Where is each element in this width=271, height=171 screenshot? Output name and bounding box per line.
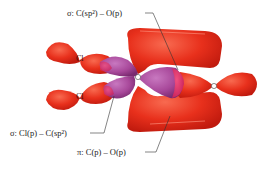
orbital-diagram xyxy=(0,0,271,171)
label-sigma-clc: σ: Cl(p) – C(sp²) xyxy=(10,128,67,138)
atom-label-cl-top: Cl xyxy=(76,54,84,63)
label-sigma-co: σ: C(sp²) – O(p) xyxy=(67,8,122,18)
carbon-nucleus xyxy=(135,74,140,79)
oxygen-nucleus xyxy=(211,83,216,88)
atom-label-cl-bottom: Cl xyxy=(76,92,84,101)
oxygen-lobe-right xyxy=(214,73,257,97)
label-pi-co: π: C(p) – O(p) xyxy=(77,147,126,157)
